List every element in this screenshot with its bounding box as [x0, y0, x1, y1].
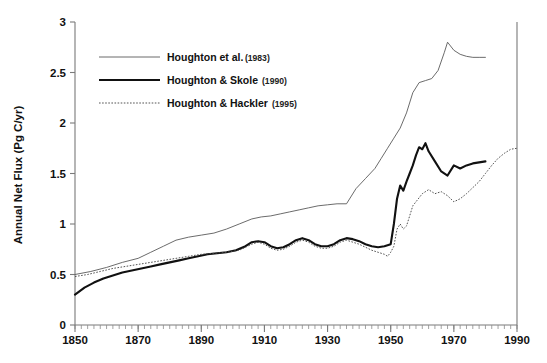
x-axis-tick-labels: 18501870189019101930195019701990 [62, 334, 530, 346]
y-axis-title: Annual Net Flux (Pg C/yr) [12, 106, 24, 245]
y-axis-ticks [70, 22, 75, 325]
y-axis-tick-labels: 00.511.522.53 [50, 16, 67, 331]
plot-frame [75, 22, 517, 325]
x-tick-label: 1870 [125, 334, 151, 346]
y-tick-label: 2 [60, 117, 66, 129]
y-tick-label: 1.5 [50, 168, 67, 180]
x-tick-label: 1970 [441, 334, 467, 346]
x-tick-label: 1890 [188, 334, 214, 346]
line-chart: 00.511.522.53 18501870189019101930195019… [0, 0, 547, 363]
y-tick-label: 2.5 [50, 67, 67, 79]
x-tick-label: 1850 [62, 334, 88, 346]
series-line-houghton-skole-1990 [75, 143, 485, 295]
y-tick-label: 0 [60, 319, 66, 331]
figure-container: 00.511.522.53 18501870189019101930195019… [0, 0, 547, 363]
axis-frame [75, 22, 517, 325]
x-axis-minor-ticks [75, 325, 517, 329]
legend-label-1995: Houghton & Hackler [167, 97, 268, 109]
legend-year-1990: (1990) [262, 76, 287, 86]
x-tick-label: 1930 [315, 334, 341, 346]
legend-label-1990: Houghton & Skole [167, 74, 258, 86]
y-tick-label: 1 [60, 218, 67, 230]
legend-label-1983: Houghton et al. [167, 51, 243, 63]
legend-year-1995: (1995) [272, 99, 297, 109]
x-tick-label: 1910 [252, 334, 278, 346]
y-tick-label: 0.5 [50, 269, 67, 281]
x-tick-label: 1990 [504, 334, 530, 346]
y-tick-label: 3 [60, 16, 66, 28]
legend: Houghton et al. (1983) Houghton & Skole … [99, 51, 297, 109]
legend-year-1983: (1983) [245, 53, 270, 63]
x-tick-label: 1950 [378, 334, 404, 346]
